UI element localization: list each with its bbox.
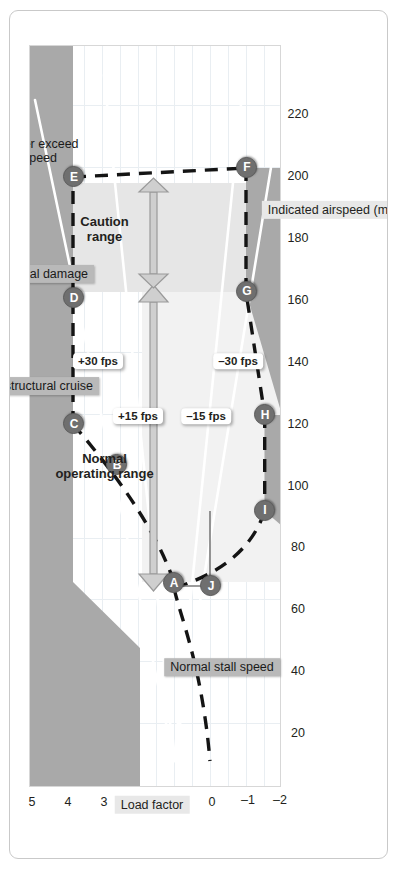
gust-label-n15-text: –15 fps [186, 410, 226, 422]
gust-label-n30-text: –30 fps [218, 355, 258, 367]
xtick-180-text: 180 [287, 230, 308, 244]
normal-operating-range-line2: operating range [55, 466, 153, 481]
xtick-140-text: 140 [287, 354, 308, 368]
never-exceed-speed-line1: Never exceed [29, 137, 79, 151]
ytick-4-text: 4 [64, 794, 71, 808]
xtick-40-text: 40 [291, 664, 305, 678]
marker-c[interactable]: C [63, 413, 84, 434]
xtick-80-text: 80 [291, 540, 305, 554]
ytick-m2-text: –2 [273, 793, 287, 807]
xtick-60-text: 60 [291, 602, 305, 616]
marker-f-label: F [242, 161, 249, 173]
figure-frame: A B C D E F G H I J +30 fps [9, 10, 388, 859]
normal-stall-speed-text: Normal stall speed [170, 660, 274, 674]
envelope-vne [73, 168, 246, 177]
gust-label-p30: +30 fps [73, 353, 123, 369]
xtick-160: 160 [287, 292, 308, 306]
caution-range-line2: range [80, 229, 128, 244]
marker-j[interactable]: J [200, 575, 221, 596]
structural-damage-text: Structural damage [29, 266, 88, 280]
xtick-20: 20 [291, 726, 305, 740]
caution-range-label: Caution range [80, 215, 128, 244]
structural-damage-label: Structural damage [29, 264, 94, 282]
marker-h[interactable]: H [254, 404, 275, 425]
xtick-220-text: 220 [287, 106, 308, 120]
marker-e-label: E [69, 170, 77, 182]
ytick-5: 5 [28, 794, 35, 808]
ytick-3-text: 3 [100, 794, 107, 808]
x-axis-title: Indicated airspeed (mph) [261, 200, 388, 218]
x-axis-title-text: Indicated airspeed (mph) [267, 202, 388, 216]
never-exceed-speed-label: Never exceed speed [29, 137, 79, 165]
max-structural-cruise-label: Maximum structural cruise [9, 377, 98, 395]
normal-stall-speed-label: Normal stall speed [164, 658, 280, 676]
max-structural-cruise-text: Maximum structural cruise [9, 379, 92, 393]
xtick-160-text: 160 [287, 292, 308, 306]
ytick-m2: –2 [273, 793, 287, 807]
never-exceed-speed-line2: speed [29, 151, 79, 165]
y-axis-title-text: Load factor [120, 797, 183, 811]
marker-g[interactable]: G [236, 281, 257, 302]
gust-label-n30: –30 fps [213, 353, 263, 369]
gust-label-p15: +15 fps [113, 408, 163, 424]
marker-a[interactable]: A [163, 572, 184, 593]
ytick-m1-text: –1 [241, 793, 255, 807]
marker-h-label: H [260, 408, 269, 420]
xtick-120-text: 120 [287, 416, 308, 430]
marker-a-label: A [169, 576, 178, 588]
gust-label-p30-text: +30 fps [78, 355, 118, 367]
xtick-120: 120 [287, 416, 308, 430]
marker-g-label: G [241, 285, 250, 297]
normal-operating-range-line1: Normal [55, 452, 153, 467]
vn-diagram-stage: A B C D E F G H I J +30 fps [23, 25, 375, 845]
xtick-140: 140 [287, 354, 308, 368]
ytick-0: 0 [208, 794, 215, 808]
ytick-m1: –1 [241, 793, 255, 807]
xtick-220: 220 [287, 106, 308, 120]
xtick-200: 200 [287, 168, 308, 182]
xtick-100-text: 100 [287, 478, 308, 492]
gust-label-p15-text: +15 fps [118, 410, 158, 422]
marker-f[interactable]: F [236, 157, 257, 178]
gust-label-n15: –15 fps [181, 408, 231, 424]
marker-d-label: D [69, 291, 78, 303]
xtick-20-text: 20 [291, 726, 305, 740]
ytick-0-text: 0 [208, 794, 215, 808]
marker-i-label: I [262, 504, 265, 516]
marker-e[interactable]: E [63, 166, 84, 187]
xtick-40: 40 [291, 664, 305, 678]
xtick-80: 80 [291, 540, 305, 554]
marker-c-label: C [69, 417, 78, 429]
ytick-3: 3 [100, 794, 107, 808]
ytick-4: 4 [64, 794, 71, 808]
marker-d[interactable]: D [63, 287, 84, 308]
xtick-100: 100 [287, 478, 308, 492]
xtick-180: 180 [287, 230, 308, 244]
marker-i[interactable]: I [254, 500, 275, 521]
marker-j-label: J [207, 579, 214, 591]
normal-operating-range-label: Normal operating range [55, 452, 153, 481]
xtick-200-text: 200 [287, 168, 308, 182]
y-axis-title: Load factor [114, 795, 189, 813]
caution-range-line1: Caution [80, 215, 128, 230]
xtick-60: 60 [291, 602, 305, 616]
ytick-5-text: 5 [28, 794, 35, 808]
